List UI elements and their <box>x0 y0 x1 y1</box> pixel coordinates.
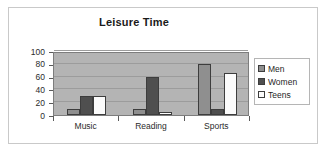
y-axis-tick-label: 20 <box>11 99 45 111</box>
legend-item-teens[interactable]: Teens <box>258 88 306 101</box>
x-axis-tick-label: Reading <box>119 121 183 131</box>
x-axis-tick-mark <box>118 116 119 121</box>
x-axis-tick-label: Music <box>54 121 118 131</box>
plot-area <box>53 52 249 116</box>
x-axis-tick-label: Sports <box>184 121 248 131</box>
legend-swatch-icon <box>258 78 265 85</box>
bar-music-teens <box>93 96 106 115</box>
bar-music-men <box>67 109 80 115</box>
y-axis-tick-label: 100 <box>11 48 45 60</box>
x-axis-tick-mark <box>184 116 185 121</box>
legend-item-women[interactable]: Women <box>258 75 306 88</box>
y-axis: 020406080100 <box>9 46 49 122</box>
x-axis-tick-mark <box>249 116 250 121</box>
bar-sports-men <box>198 64 211 115</box>
gridline <box>54 50 248 51</box>
y-axis-tick-label: 0 <box>11 112 45 124</box>
legend-swatch-icon <box>258 65 265 72</box>
x-axis-tick-mark <box>53 116 54 121</box>
legend-label: Women <box>268 77 297 87</box>
y-axis-tick-label: 60 <box>11 73 45 85</box>
legend-label: Teens <box>268 90 291 100</box>
legend-label: Men <box>268 64 285 74</box>
bar-reading-men <box>133 109 146 115</box>
gridline <box>54 63 248 64</box>
bar-sports-women <box>211 109 224 115</box>
legend-swatch-icon <box>258 91 265 98</box>
bar-music-women <box>80 96 93 115</box>
bar-reading-teens <box>159 112 172 115</box>
legend-item-men[interactable]: Men <box>258 62 306 75</box>
bar-sports-teens <box>224 73 237 115</box>
bar-reading-women <box>146 77 159 115</box>
chart-legend: MenWomenTeens <box>254 58 310 105</box>
chart-frame: Leisure Time 020406080100 MusicReadingSp… <box>8 7 318 144</box>
y-axis-tick-label: 40 <box>11 86 45 98</box>
y-axis-tick-label: 80 <box>11 60 45 72</box>
